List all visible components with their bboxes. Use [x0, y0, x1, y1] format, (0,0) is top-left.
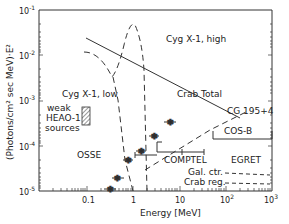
x-axis-ticks: 0.1 1 10 102 103 — [82, 193, 278, 205]
y-axis-title: (Photons/cm² sec MeV)·E² — [5, 44, 15, 160]
label-gal-ctr: Gal. ctr. — [188, 167, 223, 177]
label-comptel: COMPTEL — [164, 155, 207, 165]
label-weak: weak — [47, 103, 71, 113]
label-cyg-high: Cyg X-1, high — [166, 34, 226, 44]
x-axis-title: Energy [MeV] — [140, 208, 201, 218]
svg-text:103: 103 — [264, 193, 278, 205]
heao1-hatched-box — [82, 107, 90, 125]
crab-reg-line — [225, 183, 270, 184]
svg-text:✱: ✱ — [114, 174, 121, 183]
svg-text:10-5: 10-5 — [19, 185, 35, 197]
crab-total-line — [86, 38, 240, 118]
svg-text:102: 102 — [220, 193, 234, 205]
label-heao: HEAO-1 — [46, 113, 81, 123]
label-cyg-low: Cyg X-1, low — [62, 89, 118, 99]
svg-text:10-4: 10-4 — [19, 140, 35, 152]
cyg-x1-high-curve — [84, 24, 147, 191]
svg-text:0.1: 0.1 — [82, 196, 95, 205]
energy-spectrum-chart: 10-1 10-2 10-3 10-4 10-5 0.1 1 10 102 10… — [0, 0, 289, 224]
svg-text:✱: ✱ — [125, 156, 132, 165]
label-sources: sources — [45, 123, 80, 133]
svg-text:10-2: 10-2 — [19, 49, 35, 61]
label-cosb: COS-B — [224, 126, 252, 136]
label-crab-total: Crab Total — [177, 89, 222, 99]
label-egret: EGRET — [231, 155, 262, 165]
svg-text:✱: ✱ — [107, 185, 114, 194]
y-axis-ticks: 10-1 10-2 10-3 10-4 10-5 — [19, 4, 35, 197]
x-minor-ticks — [53, 186, 270, 191]
svg-text:✱: ✱ — [151, 132, 158, 141]
label-crab-reg: Crab reg. — [184, 177, 226, 187]
label-osse: OSSE — [77, 150, 102, 160]
svg-text:1: 1 — [131, 196, 136, 205]
svg-text:10: 10 — [175, 196, 185, 205]
svg-text:10-3: 10-3 — [19, 94, 35, 106]
svg-text:10-1: 10-1 — [19, 4, 35, 16]
svg-text:✱: ✱ — [167, 118, 174, 127]
label-cg195: CG 195+4 — [227, 106, 274, 116]
gal-ctr-line — [225, 173, 270, 175]
